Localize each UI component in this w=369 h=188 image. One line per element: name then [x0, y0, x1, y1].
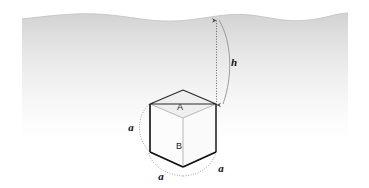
depth-label-h: h	[231, 56, 237, 68]
cube-label-top-face-a: A	[177, 102, 183, 112]
edge-label-bottom-right-a: a	[218, 162, 224, 174]
edge-label-left-a: a	[128, 121, 134, 133]
edge-label-bottom-left-a: a	[158, 170, 164, 182]
cube-shape: A B	[150, 90, 216, 167]
cube-label-bottom-face-b: B	[176, 141, 182, 151]
diagram-canvas: h	[0, 0, 369, 188]
physics-diagram-figure: h	[0, 0, 369, 188]
